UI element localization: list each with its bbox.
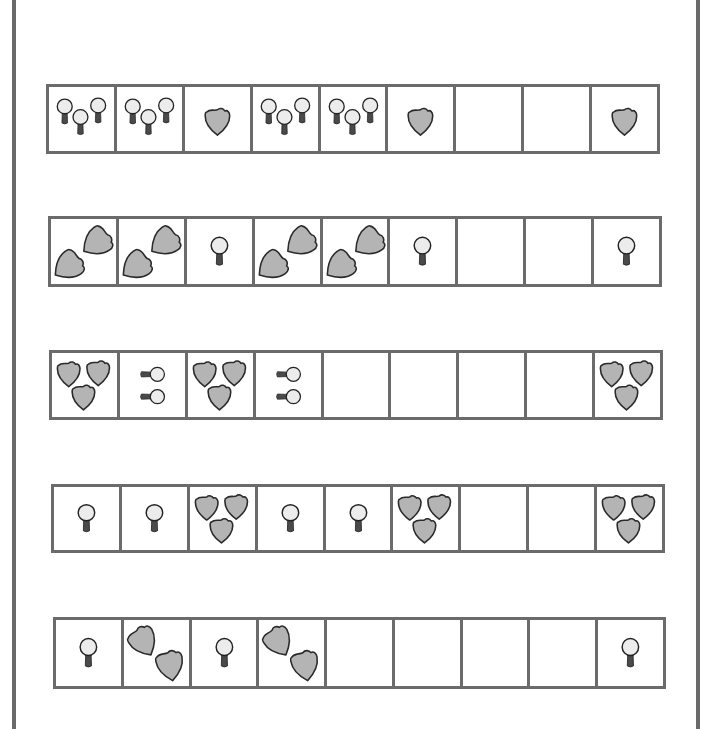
shield-icon: [154, 649, 185, 683]
cell-illustration: [192, 620, 257, 686]
pattern-cell: [122, 487, 190, 550]
cell-illustration: [187, 219, 252, 284]
answer-cell-empty[interactable]: [526, 219, 594, 284]
cell-illustration: [390, 219, 455, 284]
cell-illustration: [188, 353, 253, 417]
shield-icon: [428, 495, 451, 519]
shield-icon: [347, 223, 387, 263]
cell-illustration: [259, 620, 324, 686]
pattern-cell: [393, 487, 461, 550]
pattern-cell: [188, 353, 256, 417]
pattern-row-2: [48, 216, 662, 287]
lollipop-icon: [277, 110, 292, 135]
answer-cell-empty[interactable]: [530, 620, 598, 686]
pattern-row-3: [49, 350, 663, 420]
shield-icon: [399, 496, 422, 520]
answer-cell-empty[interactable]: [463, 620, 531, 686]
lollipop-icon: [362, 98, 377, 123]
shield-icon: [290, 649, 321, 683]
pattern-cell: [192, 620, 260, 686]
answer-cell-empty[interactable]: [395, 620, 463, 686]
shield-icon: [195, 496, 218, 520]
lollipop-icon: [618, 237, 635, 265]
pattern-cell: [594, 219, 659, 284]
lollipop-icon: [80, 639, 96, 667]
shield-icon: [617, 519, 640, 543]
cell-illustration: [124, 620, 189, 686]
cell-illustration: [323, 219, 388, 284]
answer-cell-empty[interactable]: [458, 219, 526, 284]
shield-icon: [51, 246, 88, 284]
cell-illustration: [51, 219, 116, 284]
pattern-cell: [56, 620, 124, 686]
pattern-cell: [598, 620, 663, 686]
lollipop-icon: [345, 110, 360, 135]
lollipop-icon: [415, 237, 432, 265]
shield-icon: [144, 223, 184, 263]
lollipop-icon: [159, 98, 174, 123]
shield-icon: [414, 519, 437, 543]
shield-icon: [208, 385, 231, 410]
answer-cell-empty[interactable]: [456, 87, 524, 151]
page-border-right: [696, 0, 700, 729]
shield-icon: [210, 519, 233, 543]
pattern-cell: [190, 487, 258, 550]
answer-cell-empty[interactable]: [461, 487, 529, 550]
cell-illustration: [49, 87, 114, 151]
pattern-row-5: [53, 617, 666, 689]
pattern-row-1: [46, 84, 660, 154]
shield-icon: [601, 362, 624, 387]
lollipop-icon: [261, 99, 276, 124]
shield-icon: [409, 108, 434, 135]
pattern-cell: [49, 87, 117, 151]
pattern-cell: [595, 353, 660, 417]
answer-cell-empty[interactable]: [327, 620, 395, 686]
lollipop-icon: [294, 98, 309, 123]
cell-illustration: [321, 87, 386, 151]
pattern-cell: [321, 87, 389, 151]
pattern-cell: [54, 487, 122, 550]
pattern-row-4: [51, 484, 665, 553]
shield-icon: [205, 108, 230, 135]
cell-illustration: [54, 487, 119, 550]
answer-cell-empty[interactable]: [524, 87, 592, 151]
shield-icon: [603, 496, 626, 520]
shield-icon: [193, 362, 216, 387]
pattern-cell: [51, 219, 119, 284]
lollipop-icon: [276, 390, 300, 404]
pattern-cell: [124, 620, 192, 686]
shield-icon: [612, 108, 637, 135]
cell-illustration: [253, 87, 318, 151]
cell-illustration: [598, 620, 663, 686]
lollipop-icon: [211, 237, 228, 265]
lollipop-icon: [125, 99, 140, 124]
lollipop-icon: [216, 639, 232, 667]
cell-illustration: [122, 487, 187, 550]
shield-icon: [632, 495, 655, 519]
answer-cell-empty[interactable]: [324, 353, 392, 417]
lollipop-icon: [140, 367, 164, 381]
cell-illustration: [190, 487, 255, 550]
pattern-cell: [255, 219, 323, 284]
pattern-cell: [253, 87, 321, 151]
answer-cell-empty[interactable]: [527, 353, 595, 417]
cell-illustration: [117, 87, 182, 151]
answer-cell-empty[interactable]: [529, 487, 597, 550]
answer-cell-empty[interactable]: [459, 353, 527, 417]
shield-icon: [119, 246, 156, 284]
answer-cell-empty[interactable]: [391, 353, 459, 417]
pattern-cell: [326, 487, 394, 550]
cell-illustration: [595, 353, 660, 417]
cell-illustration: [255, 219, 320, 284]
shield-icon: [57, 362, 80, 387]
lollipop-icon: [146, 505, 163, 532]
pattern-cell: [592, 87, 657, 151]
shield-icon: [630, 361, 653, 386]
cell-illustration: [388, 87, 453, 151]
cell-illustration: [52, 353, 117, 417]
pattern-cell: [117, 87, 185, 151]
pattern-cell: [258, 487, 326, 550]
pattern-cell: [390, 219, 458, 284]
lollipop-icon: [350, 505, 367, 532]
lollipop-icon: [73, 110, 88, 135]
